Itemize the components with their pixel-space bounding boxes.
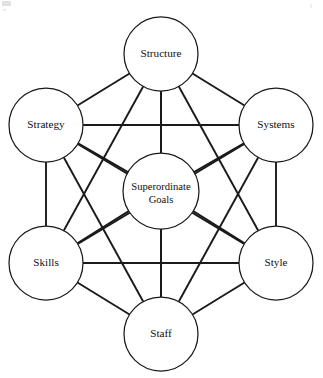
node-label-style: Style (265, 256, 288, 268)
seven-s-framework-diagram: StructureStrategySystemsSkillsStyleStaff… (0, 0, 323, 378)
node-style[interactable]: Style (239, 226, 313, 300)
node-skills[interactable]: Skills (9, 226, 83, 300)
scan-artifact-top-left (2, 1, 11, 6)
diagram-canvas: StructureStrategySystemsSkillsStyleStaff… (0, 0, 323, 378)
edge-style-to-staff (192, 282, 244, 314)
node-structure[interactable]: Structure (124, 17, 198, 91)
node-superordinate-goals[interactable]: SuperordinateGoals (123, 153, 199, 229)
node-layer: StructureStrategySystemsSkillsStyleStaff… (9, 17, 313, 371)
scan-artifact-secondary (3, 9, 6, 11)
node-label-skills: Skills (33, 256, 59, 268)
node-label-structure: Structure (140, 47, 181, 59)
node-systems[interactable]: Systems (239, 88, 313, 162)
node-label-strategy: Strategy (27, 118, 65, 130)
node-strategy[interactable]: Strategy (9, 88, 83, 162)
edge-structure-to-strategy (77, 73, 129, 105)
edge-strategy-to-superordinate-goals (78, 143, 128, 172)
edge-structure-to-systems (192, 73, 244, 105)
node-label-staff: Staff (150, 327, 172, 339)
scan-artifact-top-right (310, 4, 312, 8)
edge-style-to-superordinate-goals (193, 211, 244, 243)
edge-skills-to-staff (77, 282, 129, 314)
edge-systems-to-superordinate-goals (194, 143, 244, 172)
node-staff[interactable]: Staff (124, 297, 198, 371)
edge-skills-to-superordinate-goals (77, 211, 128, 243)
node-label-systems: Systems (257, 118, 294, 130)
